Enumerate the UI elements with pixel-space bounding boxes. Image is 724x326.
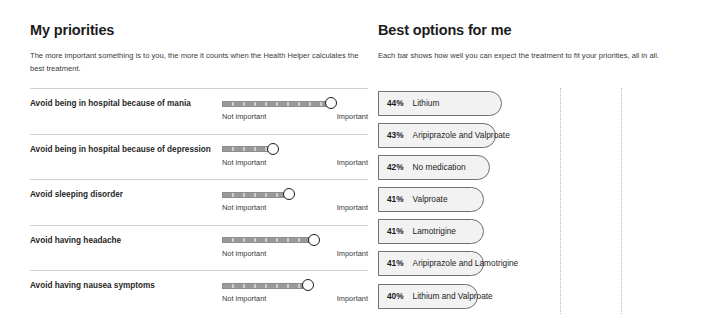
priority-slider[interactable]: Not importantImportant [222, 186, 368, 220]
slider-min-label: Not important [222, 249, 266, 258]
result-bar-row[interactable]: 41%Aripiprazole and Lamotrigine [378, 249, 718, 281]
results-bar-chart: 44%Lithium43%Aripiprazole and Valproate4… [378, 88, 718, 316]
result-bar-percent: 41% [387, 258, 404, 268]
slider-control[interactable] [222, 234, 340, 246]
priority-label: Avoid being in hospital because of depre… [30, 144, 220, 157]
result-bar-row[interactable]: 43%Aripiprazole and Valproate [378, 120, 718, 152]
priority-label: Avoid having headache [30, 235, 220, 248]
result-bar-row[interactable]: 41%Valproate [378, 185, 718, 217]
result-bar-row[interactable]: 42%No medication [378, 152, 718, 184]
slider-scale: Not importantImportant [222, 203, 368, 212]
slider-track[interactable] [222, 283, 308, 289]
slider-track[interactable] [222, 192, 289, 198]
result-bar-label: Aripiprazole and Valproate [413, 130, 510, 140]
result-bar-row[interactable]: 44%Lithium [378, 88, 718, 120]
slider-min-label: Not important [222, 203, 266, 212]
slider-track[interactable] [222, 146, 273, 152]
result-bar-text: 41%Aripiprazole and Lamotrigine [387, 258, 518, 268]
slider-track[interactable] [222, 101, 331, 107]
priority-label: Avoid having nausea symptoms [30, 280, 220, 293]
result-bar-percent: 40% [387, 291, 404, 301]
result-bar-text: 40%Lithium and Valproate [387, 291, 493, 301]
slider-control[interactable] [222, 279, 340, 291]
slider-max-label: Important [337, 158, 368, 167]
health-helper-results-page: My priorities The more important somethi… [0, 0, 724, 326]
priority-label: Avoid sleeping disorder [30, 189, 220, 202]
slider-min-label: Not important [222, 294, 266, 303]
slider-control[interactable] [222, 188, 340, 200]
priorities-panel: My priorities The more important somethi… [30, 0, 368, 326]
result-bar-label: Valproate [413, 194, 448, 204]
slider-max-label: Important [337, 112, 368, 121]
slider-max-label: Important [337, 249, 368, 258]
result-bar-percent: 41% [387, 226, 404, 236]
priority-label: Avoid being in hospital because of mania [30, 98, 220, 111]
slider-min-label: Not important [222, 158, 266, 167]
priority-row: Avoid being in hospital because of depre… [30, 134, 368, 180]
priorities-subtitle: The more important something is to you, … [30, 38, 360, 75]
slider-thumb[interactable] [267, 143, 279, 155]
results-title: Best options for me [378, 0, 718, 38]
result-bar-text: 44%Lithium [387, 98, 439, 108]
slider-thumb[interactable] [302, 279, 314, 291]
result-bar-percent: 44% [387, 98, 404, 108]
slider-max-label: Important [337, 203, 368, 212]
priority-list: Avoid being in hospital because of mania… [30, 88, 368, 316]
priority-row: Avoid being in hospital because of mania… [30, 88, 368, 134]
result-bar-percent: 42% [387, 162, 404, 172]
slider-min-label: Not important [222, 112, 266, 121]
result-bar-text: 41%Lamotrigine [387, 226, 456, 236]
priority-slider[interactable]: Not importantImportant [222, 141, 368, 175]
slider-control[interactable] [222, 143, 340, 155]
priority-slider[interactable]: Not importantImportant [222, 277, 368, 311]
slider-scale: Not importantImportant [222, 158, 368, 167]
results-subtitle: Each bar shows how well you can expect t… [378, 38, 708, 63]
result-bar-label: Lithium and Valproate [413, 291, 493, 301]
slider-scale: Not importantImportant [222, 249, 368, 258]
result-bar-label: Lithium [413, 98, 440, 108]
result-bar-row[interactable]: 41%Lamotrigine [378, 217, 718, 249]
priority-slider[interactable]: Not importantImportant [222, 232, 368, 266]
priority-slider[interactable]: Not importantImportant [222, 95, 368, 129]
slider-max-label: Important [337, 294, 368, 303]
priority-row: Avoid having nausea symptomsNot importan… [30, 270, 368, 316]
result-bar-text: 42%No medication [387, 162, 466, 172]
result-bar-text: 41%Valproate [387, 194, 448, 204]
result-bar-row[interactable]: 40%Lithium and Valproate [378, 281, 718, 313]
slider-thumb[interactable] [283, 188, 295, 200]
slider-scale: Not importantImportant [222, 112, 368, 121]
slider-track[interactable] [222, 237, 314, 243]
slider-control[interactable] [222, 97, 340, 109]
result-bar-percent: 43% [387, 130, 404, 140]
priorities-title: My priorities [30, 0, 368, 38]
result-bar-text: 43%Aripiprazole and Valproate [387, 130, 510, 140]
priority-row: Avoid having headacheNot importantImport… [30, 225, 368, 271]
result-bar-label: No medication [413, 162, 466, 172]
slider-scale: Not importantImportant [222, 294, 368, 303]
results-panel: Best options for me Each bar shows how w… [378, 0, 718, 326]
slider-thumb[interactable] [308, 234, 320, 246]
slider-thumb[interactable] [325, 97, 337, 109]
result-bar-percent: 41% [387, 194, 404, 204]
result-bar-label: Lamotrigine [413, 226, 456, 236]
result-bar-label: Aripiprazole and Lamotrigine [413, 258, 519, 268]
priority-row: Avoid sleeping disorderNot importantImpo… [30, 179, 368, 225]
